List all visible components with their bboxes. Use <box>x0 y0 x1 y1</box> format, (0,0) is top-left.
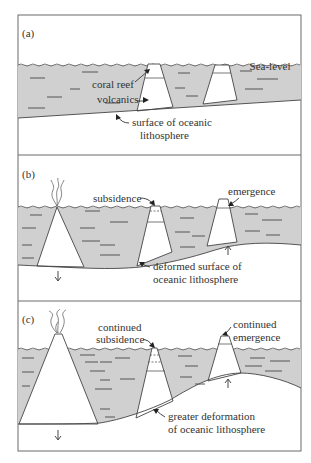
subsidence-diagram: (a) Sea-level coral reef <box>0 0 311 463</box>
surface-label-line2: oceanic lithosphere <box>153 273 238 285</box>
continued-subsidence-label-line1: continued <box>98 321 142 333</box>
continued-subsidence-label-line2: subsidence <box>96 333 144 345</box>
surface-label-line1: deformed surface of <box>153 260 242 272</box>
surface-label-line1: surface of oceanic <box>132 116 212 128</box>
sea-level-label: Sea-level <box>250 60 291 72</box>
surface-label-line2: of oceanic lithosphere <box>168 423 265 435</box>
panel-a-label: (a) <box>22 27 35 40</box>
surface-label-line2: lithosphere <box>140 129 189 141</box>
panel-b-label: (b) <box>22 168 35 181</box>
surface-label-line1: greater deformation <box>168 410 256 422</box>
continued-emergence-label-line1: continued <box>233 318 277 330</box>
volcanics-label: volcanics <box>97 93 139 105</box>
emergence-label: emergence <box>228 185 276 197</box>
panel-c-label: (c) <box>22 313 35 326</box>
continued-emergence-label-line2: emergence <box>233 331 281 343</box>
coral-reef-label: coral reef <box>92 78 134 90</box>
subsidence-label: subsidence <box>93 192 141 204</box>
